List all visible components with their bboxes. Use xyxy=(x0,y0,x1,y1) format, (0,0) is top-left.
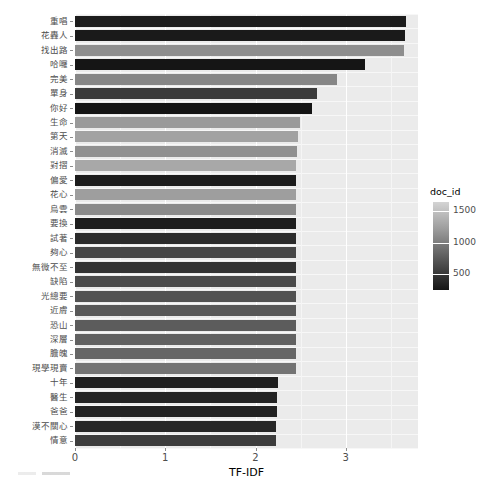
y-axis-tick-mark xyxy=(70,267,73,268)
y-axis-tick-label: 試著 xyxy=(50,233,68,244)
bar xyxy=(75,377,278,388)
y-axis-tick-mark xyxy=(70,21,73,22)
y-axis-tick-mark xyxy=(70,36,73,37)
x-minor-gridline xyxy=(391,14,392,448)
bar xyxy=(75,30,405,41)
y-axis-tick-label: 十年 xyxy=(50,377,68,388)
legend-tick-label: 1000 xyxy=(453,237,476,247)
legend-doc-id: doc_id 15001000500 xyxy=(430,186,495,301)
y-axis-tick-label: 找出路 xyxy=(41,45,68,56)
bar xyxy=(75,74,337,85)
x-axis-tick-label: 1 xyxy=(153,452,177,463)
bar xyxy=(75,204,296,215)
y-axis-tick-label: 夠心 xyxy=(50,247,68,258)
bar xyxy=(75,305,296,316)
y-axis-tick-mark xyxy=(70,151,73,152)
y-axis-tick-mark xyxy=(70,166,73,167)
y-axis-tick-label: 醫生 xyxy=(50,392,68,403)
y-axis-tick-label: 重唱 xyxy=(50,16,68,27)
y-axis-tick-mark xyxy=(70,65,73,66)
y-axis-tick-label: 偏愛 xyxy=(50,175,68,186)
x-axis-tick-label: 3 xyxy=(334,452,358,463)
y-axis-tick-label: 膽魄 xyxy=(50,348,68,359)
y-axis-tick-label: 花轟人 xyxy=(41,30,68,41)
y-axis-tick-label: 近膚 xyxy=(50,305,68,316)
bar xyxy=(75,45,404,56)
legend-tick-label: 500 xyxy=(453,268,470,278)
y-axis-tick-label: 花心 xyxy=(50,189,68,200)
bar xyxy=(75,59,365,70)
y-axis-tick-mark xyxy=(70,426,73,427)
y-axis-tick-label: 要換 xyxy=(50,218,68,229)
y-axis-tick-label: 你好 xyxy=(50,103,68,114)
y-axis-tick-mark xyxy=(70,253,73,254)
x-axis-tick-mark xyxy=(346,448,347,451)
y-axis-tick-mark xyxy=(70,282,73,283)
bar xyxy=(75,160,296,171)
bar xyxy=(75,16,406,27)
x-axis-tick-mark xyxy=(256,448,257,451)
y-axis-tick-label: 情意 xyxy=(50,435,68,446)
horizontal-gridline xyxy=(75,448,418,449)
legend-tick-mark xyxy=(433,274,449,275)
plot-panel xyxy=(75,14,418,448)
legend-title: doc_id xyxy=(430,186,461,197)
bar xyxy=(75,233,296,244)
x-axis-tick-mark xyxy=(165,448,166,451)
x-major-gridline xyxy=(346,14,347,448)
bar xyxy=(75,117,300,128)
y-axis-tick-mark xyxy=(70,137,73,138)
bar xyxy=(75,363,296,374)
bar xyxy=(75,276,296,287)
bar xyxy=(75,406,277,417)
bar xyxy=(75,131,298,142)
bottom-edge-artifact xyxy=(18,472,88,475)
y-axis-tick-mark xyxy=(70,108,73,109)
bar xyxy=(75,421,276,432)
bar xyxy=(75,175,296,186)
bar xyxy=(75,262,296,273)
y-axis-tick-mark xyxy=(70,296,73,297)
bar xyxy=(75,103,312,114)
y-axis-tick-mark xyxy=(70,180,73,181)
y-axis-tick-mark xyxy=(70,195,73,196)
y-axis-tick-mark xyxy=(70,397,73,398)
y-axis-tick-mark xyxy=(70,383,73,384)
y-axis-tick-label: 光總要 xyxy=(41,291,68,302)
y-axis-tick-mark xyxy=(70,238,73,239)
y-axis-tick-label: 爸爸 xyxy=(50,406,68,417)
x-axis-tick-label: 2 xyxy=(244,452,268,463)
y-axis-tick-label: 烏雲 xyxy=(50,204,68,215)
y-axis-tick-label: 無微不至 xyxy=(32,262,68,273)
bar xyxy=(75,218,296,229)
y-axis-labels: 重唱花轟人找出路哈囉完美單身你好生命第天消滅對摺偏愛花心烏雲要換試著夠心無微不至… xyxy=(0,14,68,448)
y-axis-tick-mark xyxy=(70,354,73,355)
y-axis-tick-label: 現學現賣 xyxy=(32,363,68,374)
bar xyxy=(75,435,276,446)
tfidf-bar-chart: 重唱花轟人找出路哈囉完美單身你好生命第天消滅對摺偏愛花心烏雲要換試著夠心無微不至… xyxy=(0,0,495,482)
y-axis-tick-mark xyxy=(70,412,73,413)
legend-tick-mark xyxy=(433,243,449,244)
y-axis-tick-label: 第天 xyxy=(50,131,68,142)
legend-tick-label: 1500 xyxy=(453,205,476,215)
y-axis-tick-mark xyxy=(70,368,73,369)
bar xyxy=(75,189,296,200)
y-axis-tick-mark xyxy=(70,311,73,312)
bar xyxy=(75,146,297,157)
y-axis-tick-label: 對摺 xyxy=(50,160,68,171)
y-axis-tick-mark xyxy=(70,123,73,124)
y-axis-tick-label: 漠不關心 xyxy=(32,421,68,432)
bar xyxy=(75,320,296,331)
legend-colorbar xyxy=(433,202,449,290)
x-axis-tick-mark xyxy=(75,448,76,451)
y-axis-tick-mark xyxy=(70,325,73,326)
y-axis-tick-label: 消滅 xyxy=(50,146,68,157)
y-axis-tick-label: 哈囉 xyxy=(50,59,68,70)
bar xyxy=(75,88,317,99)
bar xyxy=(75,291,296,302)
y-axis-tick-label: 缺陷 xyxy=(50,276,68,287)
y-axis-tick-label: 恐山 xyxy=(50,320,68,331)
y-axis-tick-mark xyxy=(70,441,73,442)
bar xyxy=(75,334,296,345)
y-axis-tick-mark xyxy=(70,79,73,80)
